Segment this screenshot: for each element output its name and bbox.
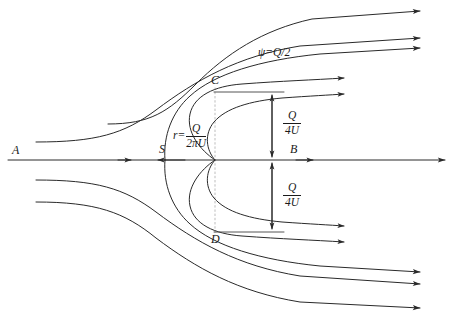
source-streamline-mid-upper: [189, 78, 344, 160]
streamline-upper-middle: [36, 38, 420, 142]
label-offset-lower: Q 4U: [283, 182, 301, 208]
offset-upper-denominator: 4U: [283, 125, 301, 137]
label-psi-value: ψ=Q/2: [258, 47, 290, 59]
label-point-c: C: [211, 74, 219, 86]
label-point-d: D: [211, 233, 220, 245]
label-point-a: A: [12, 144, 19, 156]
flow-diagram: A S B C D ψ=Q/2 r= Q 2πU Q 4U Q 4U: [0, 0, 453, 316]
offset-lower-denominator: 4U: [283, 197, 301, 209]
offset-upper-numerator: Q: [283, 110, 301, 122]
radius-denominator: 2πU: [186, 138, 206, 150]
source-streamline-inner-upper: [207, 94, 344, 160]
label-point-b: B: [290, 143, 297, 155]
streamline-canvas: [0, 0, 453, 316]
radius-fraction: Q 2πU: [186, 123, 206, 149]
label-offset-upper: Q 4U: [283, 110, 301, 136]
streamline-upper-outer: [108, 11, 420, 124]
label-point-s: S: [159, 143, 165, 155]
source-streamline-mid-lower: [189, 160, 344, 242]
source-streamline-inner-lower: [207, 160, 344, 226]
dividing-streamline-lower: [165, 160, 420, 272]
radius-numerator: Q: [186, 123, 206, 135]
label-stagnation-radius: r= Q 2πU: [173, 123, 206, 149]
offset-lower-numerator: Q: [283, 182, 301, 194]
radius-lead: r=: [173, 130, 185, 142]
